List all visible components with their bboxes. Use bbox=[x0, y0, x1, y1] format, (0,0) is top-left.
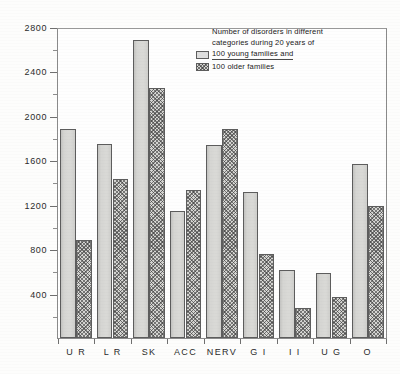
y-tick-1200 bbox=[50, 206, 57, 207]
bar-o-young bbox=[352, 164, 368, 338]
x-axis-label-ur: U R bbox=[66, 347, 86, 357]
bar-o-older bbox=[368, 206, 384, 338]
bar-chart: 2800 2400 2000 1600 1200 800 400 U RL RS… bbox=[0, 0, 400, 374]
x-tick bbox=[204, 339, 205, 344]
y-axis-label-2800: 2800 bbox=[25, 23, 47, 33]
x-axis-label-ug: U G bbox=[321, 347, 341, 357]
bar-ug-young bbox=[316, 273, 332, 338]
x-tick bbox=[167, 339, 168, 344]
legend-entry-young: 100 young families and bbox=[196, 49, 372, 60]
y-axis-label-2400: 2400 bbox=[25, 67, 47, 77]
x-tick bbox=[94, 339, 95, 344]
bar-gi-young bbox=[243, 192, 259, 338]
bar-nerv-older bbox=[222, 129, 238, 338]
x-tick bbox=[131, 339, 132, 344]
y-tick-600 bbox=[53, 272, 57, 273]
bar-lr-older bbox=[113, 179, 129, 338]
y-tick-200 bbox=[53, 317, 57, 318]
bar-ur-young bbox=[60, 129, 76, 338]
bar-ug-older bbox=[332, 297, 348, 338]
y-tick-2000 bbox=[50, 117, 57, 118]
y-tick-2400 bbox=[50, 72, 57, 73]
y-tick-1600 bbox=[50, 161, 57, 162]
x-axis-label-acc: ACC bbox=[174, 347, 197, 357]
y-tick-2600 bbox=[53, 50, 57, 51]
bar-lr-young bbox=[97, 144, 113, 338]
legend-label-older: 100 older families bbox=[212, 62, 274, 71]
bar-sk-older bbox=[149, 88, 165, 339]
y-axis-label-2000: 2000 bbox=[25, 112, 47, 122]
y-tick-800 bbox=[50, 250, 57, 251]
y-axis: 2800 2400 2000 1600 1200 800 400 bbox=[0, 0, 57, 374]
bar-ii-young bbox=[279, 270, 295, 338]
y-tick-2200 bbox=[53, 94, 57, 95]
y-tick-1000 bbox=[53, 228, 57, 229]
y-axis-label-400: 400 bbox=[30, 290, 47, 300]
y-tick-1800 bbox=[53, 139, 57, 140]
y-axis-label-800: 800 bbox=[30, 245, 47, 255]
legend-label-young: 100 young families and bbox=[212, 49, 293, 60]
bar-ii-older bbox=[295, 308, 311, 338]
legend-entry-older: 100 older families bbox=[196, 61, 372, 72]
plain-swatch-icon bbox=[196, 51, 209, 59]
bars-layer bbox=[58, 29, 386, 338]
x-axis-label-o: O bbox=[364, 347, 372, 357]
bar-ur-older bbox=[76, 240, 92, 338]
bar-sk-young bbox=[133, 40, 149, 338]
bar-nerv-young bbox=[206, 145, 222, 338]
x-tick bbox=[277, 339, 278, 344]
y-tick-2800 bbox=[50, 28, 57, 29]
x-axis-label-ii: I I bbox=[289, 347, 301, 357]
x-axis-label-lr: L R bbox=[104, 347, 122, 357]
x-tick bbox=[58, 339, 59, 344]
y-tick-400 bbox=[50, 295, 57, 296]
hatched-swatch-icon bbox=[196, 63, 209, 71]
y-tick-1400 bbox=[53, 183, 57, 184]
x-tick bbox=[313, 339, 314, 344]
x-axis-label-nerv: NERV bbox=[207, 347, 237, 357]
legend: Number of disorders in different categor… bbox=[196, 27, 372, 72]
bar-acc-young bbox=[170, 211, 186, 338]
bar-gi-older bbox=[259, 254, 275, 338]
x-axis-label-sk: SK bbox=[142, 347, 157, 357]
x-axis-label-gi: G I bbox=[250, 347, 266, 357]
x-tick bbox=[386, 339, 387, 344]
legend-title: Number of disorders in different categor… bbox=[212, 27, 372, 48]
x-tick bbox=[350, 339, 351, 344]
y-axis-label-1600: 1600 bbox=[25, 156, 47, 166]
y-axis-label-1200: 1200 bbox=[25, 201, 47, 211]
x-tick bbox=[240, 339, 241, 344]
bar-acc-older bbox=[186, 190, 202, 338]
